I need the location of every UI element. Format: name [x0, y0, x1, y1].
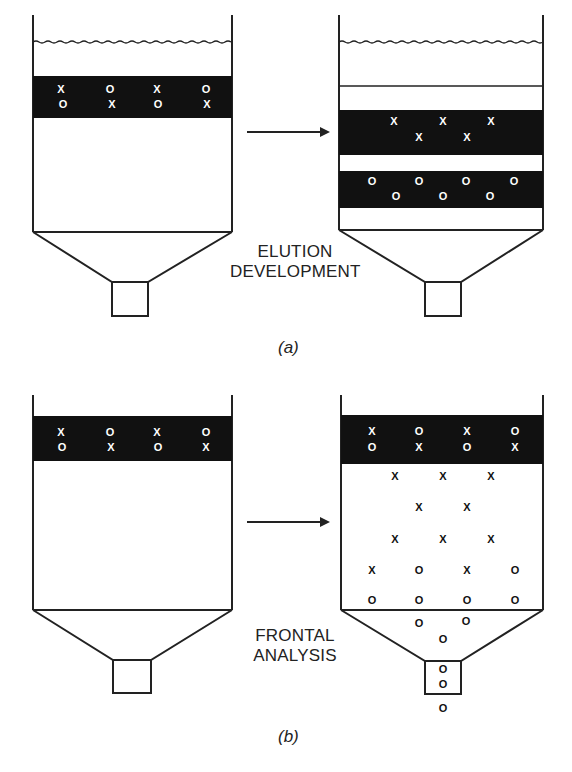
svg-text:X: X [439, 115, 447, 127]
svg-text:O: O [106, 426, 115, 438]
svg-text:O: O [202, 426, 211, 438]
svg-text:O: O [154, 441, 163, 453]
label-line: ELUTION [230, 242, 360, 262]
svg-text:X: X [391, 533, 399, 545]
solvent-surface [339, 41, 543, 43]
svg-text:O: O [415, 425, 424, 437]
svg-text:O: O [415, 564, 424, 576]
svg-text:O: O [59, 98, 68, 110]
svg-text:X: X [439, 533, 447, 545]
solvent-surface [33, 41, 231, 43]
svg-text:O: O [415, 617, 424, 629]
svg-text:X: X [463, 425, 471, 437]
label-line: ANALYSIS [240, 646, 350, 666]
svg-text:X: X [511, 441, 519, 453]
svg-text:O: O [58, 441, 67, 453]
svg-text:X: X [415, 501, 423, 513]
svg-text:O: O [439, 702, 448, 714]
svg-text:X: X [463, 501, 471, 513]
svg-text:X: X [463, 564, 471, 576]
svg-text:O: O [439, 678, 448, 690]
svg-text:X: X [203, 98, 211, 110]
svg-text:X: X [487, 115, 495, 127]
svg-text:O: O [511, 594, 520, 606]
svg-text:O: O [462, 175, 471, 187]
label-line: DEVELOPMENT [230, 262, 360, 282]
svg-text:X: X [463, 131, 471, 143]
svg-text:O: O [439, 663, 448, 675]
svg-text:O: O [511, 425, 520, 437]
svg-text:X: X [368, 425, 376, 437]
svg-text:O: O [392, 190, 401, 202]
svg-text:O: O [368, 175, 377, 187]
column-a-after [339, 15, 543, 316]
svg-text:X: X [107, 441, 115, 453]
svg-text:X: X [415, 131, 423, 143]
svg-text:X: X [368, 564, 376, 576]
svg-text:X: X [108, 98, 116, 110]
svg-text:X: X [439, 470, 447, 482]
svg-text:O: O [415, 594, 424, 606]
svg-text:O: O [439, 190, 448, 202]
svg-text:O: O [463, 441, 472, 453]
svg-text:X: X [57, 426, 65, 438]
svg-text:X: X [202, 441, 210, 453]
svg-text:O: O [463, 594, 472, 606]
svg-text:O: O [439, 633, 448, 645]
svg-text:O: O [202, 83, 211, 95]
svg-text:X: X [391, 470, 399, 482]
column-a-before [33, 15, 232, 316]
svg-text:O: O [462, 615, 471, 627]
label-line: FRONTAL [240, 626, 350, 646]
svg-text:O: O [154, 98, 163, 110]
svg-text:O: O [368, 594, 377, 606]
svg-text:O: O [510, 175, 519, 187]
svg-text:X: X [153, 83, 161, 95]
arrow-icon [247, 127, 330, 137]
svg-text:X: X [415, 441, 423, 453]
svg-text:O: O [486, 190, 495, 202]
sample-band [341, 415, 543, 464]
svg-text:O: O [368, 441, 377, 453]
caption-a: (a) [278, 338, 299, 358]
sample-band [33, 416, 232, 461]
arrow-icon [247, 517, 330, 527]
svg-text:X: X [153, 426, 161, 438]
svg-text:O: O [106, 83, 115, 95]
svg-text:X: X [487, 470, 495, 482]
svg-text:X: X [487, 533, 495, 545]
svg-text:X: X [390, 115, 398, 127]
svg-text:O: O [511, 564, 520, 576]
caption-b: (b) [278, 727, 299, 747]
method-label-frontal: FRONTAL ANALYSIS [240, 626, 350, 666]
method-label-elution: ELUTION DEVELOPMENT [230, 242, 360, 282]
svg-text:X: X [57, 83, 65, 95]
svg-text:O: O [415, 175, 424, 187]
